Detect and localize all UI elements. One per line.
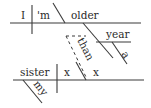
word-conjunction: than	[75, 35, 97, 62]
word-clause-complement: x	[93, 66, 99, 78]
sentence-diagram: I 'm older year a than sister x x my	[0, 0, 151, 108]
word-possessive: my	[31, 78, 50, 98]
word-year: year	[105, 28, 130, 40]
word-verb: 'm	[37, 9, 50, 21]
word-predicate-adjective: older	[71, 9, 100, 21]
word-subject: I	[21, 9, 25, 21]
word-clause-subject: sister	[20, 66, 51, 78]
word-clause-verb: x	[64, 66, 70, 78]
predicate-slant	[53, 3, 65, 23]
word-article: a	[119, 49, 132, 61]
clause-complement-slant	[76, 62, 86, 80]
